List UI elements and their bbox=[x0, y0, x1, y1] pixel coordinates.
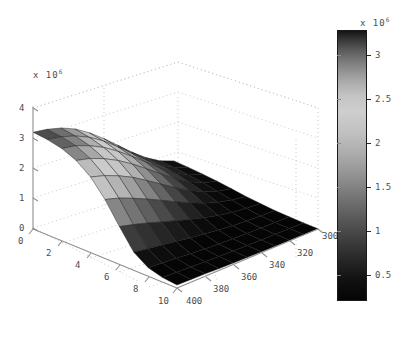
colorbar-tick-in-0 bbox=[337, 275, 341, 276]
colorbar-gradient bbox=[337, 30, 367, 301]
z-tick-label-1: 1 bbox=[19, 194, 24, 203]
colorbar-label-5: 3 bbox=[375, 51, 380, 60]
y-tick-label-400: 400 bbox=[186, 297, 202, 306]
x-tick-label-8: 8 bbox=[133, 285, 138, 294]
colorbar-label-2: 1.5 bbox=[375, 183, 391, 192]
colorbar-label-3: 2 bbox=[375, 139, 380, 148]
x-tick-label-4: 4 bbox=[75, 261, 80, 270]
colorbar-tick-3 bbox=[367, 143, 371, 144]
colorbar-label-0: 0.5 bbox=[375, 271, 391, 280]
colorbar-tick-0 bbox=[367, 275, 371, 276]
z-tick-label-4: 4 bbox=[19, 104, 24, 113]
colorbar-exponent-label: x 106 bbox=[360, 16, 389, 28]
colorbar[interactable]: 0.5 1 1.5 2 2.5 3 bbox=[337, 30, 367, 301]
z-tick-label-2: 2 bbox=[19, 164, 24, 173]
z-tick-label-3: 3 bbox=[19, 134, 24, 143]
x-tick-label-0: 0 bbox=[18, 237, 23, 246]
colorbar-label-1: 1 bbox=[375, 227, 380, 236]
y-tick-label-380: 380 bbox=[213, 285, 229, 294]
y-tick-label-360: 360 bbox=[241, 273, 257, 282]
x-tick-label-10: 10 bbox=[158, 297, 169, 306]
y-tick-label-300: 300 bbox=[322, 232, 338, 241]
z-tick-label-0: 0 bbox=[19, 224, 24, 233]
colorbar-tick-5 bbox=[367, 55, 371, 56]
colorbar-tick-in-1 bbox=[337, 231, 341, 232]
x-tick-label-6: 6 bbox=[104, 273, 109, 282]
colorbar-label-4: 2.5 bbox=[375, 95, 391, 104]
colorbar-tick-in-2 bbox=[337, 187, 341, 188]
colorbar-tick-in-4 bbox=[337, 99, 341, 100]
colorbar-tick-4 bbox=[367, 99, 371, 100]
colorbar-tick-in-5 bbox=[337, 55, 341, 56]
colorbar-tick-1 bbox=[367, 231, 371, 232]
colorbar-tick-in-3 bbox=[337, 143, 341, 144]
y-tick-label-340: 340 bbox=[269, 261, 285, 270]
y-tick-label-320: 320 bbox=[297, 249, 313, 258]
figure-canvas: x 106 4 3 2 1 0 0 2 4 6 8 10 400 380 360… bbox=[0, 0, 411, 338]
x-tick-label-2: 2 bbox=[46, 249, 51, 258]
z-axis-exponent-label: x 106 bbox=[33, 68, 62, 80]
colorbar-tick-2 bbox=[367, 187, 371, 188]
